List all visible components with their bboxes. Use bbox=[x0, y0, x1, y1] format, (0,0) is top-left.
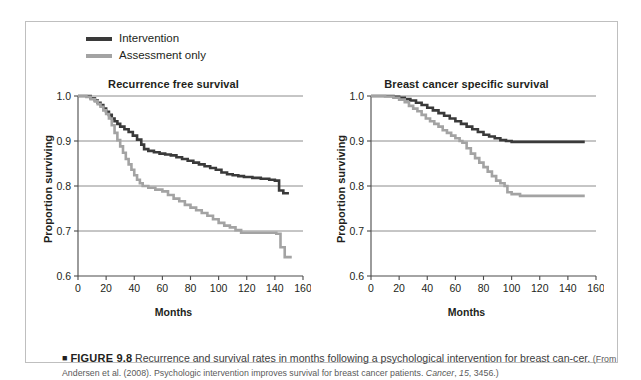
svg-text:0.6: 0.6 bbox=[349, 270, 364, 282]
caption-lead-text: Recurrence and survival rates in months … bbox=[135, 352, 590, 364]
svg-text:40: 40 bbox=[128, 282, 140, 294]
caption-figure-number: FIGURE 9.8 bbox=[70, 352, 132, 364]
caption-source-pages: , 3456.) bbox=[469, 368, 499, 378]
caption-marker-icon: ■ bbox=[62, 353, 67, 363]
svg-text:20: 20 bbox=[100, 282, 112, 294]
svg-text:60: 60 bbox=[450, 282, 462, 294]
svg-text:0.7: 0.7 bbox=[56, 225, 71, 237]
plot-area-left: 0.60.70.80.91.0020406080100120140160 bbox=[36, 92, 311, 304]
svg-text:100: 100 bbox=[503, 282, 521, 294]
svg-text:160: 160 bbox=[587, 282, 604, 294]
svg-text:0.9: 0.9 bbox=[56, 135, 71, 147]
figure-caption: ■FIGURE 9.8 Recurrence and survival rate… bbox=[62, 351, 634, 380]
svg-text:80: 80 bbox=[478, 282, 490, 294]
svg-text:120: 120 bbox=[531, 282, 549, 294]
x-axis-title-left: Months bbox=[36, 306, 311, 318]
caption-source-volume: 15 bbox=[459, 368, 469, 378]
svg-text:80: 80 bbox=[185, 282, 197, 294]
legend-item-intervention: Intervention bbox=[86, 31, 206, 46]
svg-text:1.0: 1.0 bbox=[56, 92, 71, 102]
svg-text:120: 120 bbox=[238, 282, 256, 294]
svg-text:140: 140 bbox=[559, 282, 577, 294]
svg-text:0.7: 0.7 bbox=[349, 225, 364, 237]
svg-text:0.9: 0.9 bbox=[349, 135, 364, 147]
svg-text:60: 60 bbox=[157, 282, 169, 294]
svg-text:20: 20 bbox=[393, 282, 405, 294]
chart-panel-recurrence-free-survival: Recurrence free survival Proportion surv… bbox=[36, 78, 311, 328]
svg-text:0.8: 0.8 bbox=[349, 180, 364, 192]
chart-title-right: Breast cancer specific survival bbox=[329, 78, 604, 90]
caption-source-journal: Cancer bbox=[426, 368, 454, 378]
legend-swatch-assessment-only bbox=[86, 54, 112, 58]
legend-item-assessment-only: Assessment only bbox=[86, 48, 206, 63]
figure-panel: Intervention Assessment only Recurrence … bbox=[25, 21, 618, 363]
legend-label-intervention: Intervention bbox=[119, 32, 179, 45]
x-axis-title-right: Months bbox=[329, 306, 604, 318]
svg-text:0: 0 bbox=[75, 282, 81, 294]
svg-text:0.8: 0.8 bbox=[56, 180, 71, 192]
svg-text:0.6: 0.6 bbox=[56, 270, 71, 282]
svg-text:40: 40 bbox=[421, 282, 433, 294]
chart-title-left: Recurrence free survival bbox=[36, 78, 311, 90]
chart-panel-breast-cancer-specific-survival: Breast cancer specific survival Proporti… bbox=[329, 78, 604, 328]
chart-legend: Intervention Assessment only bbox=[86, 31, 206, 65]
svg-text:1.0: 1.0 bbox=[349, 92, 364, 102]
svg-text:0: 0 bbox=[368, 282, 374, 294]
plot-area-right: 0.60.70.80.91.0020406080100120140160 bbox=[329, 92, 604, 304]
svg-text:160: 160 bbox=[294, 282, 311, 294]
legend-label-assessment-only: Assessment only bbox=[119, 49, 206, 62]
svg-text:100: 100 bbox=[210, 282, 228, 294]
svg-text:140: 140 bbox=[266, 282, 284, 294]
legend-swatch-intervention bbox=[86, 37, 112, 41]
